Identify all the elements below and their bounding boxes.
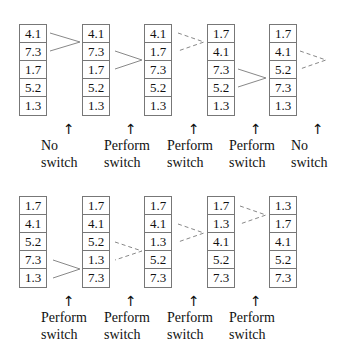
up-arrow-icon: ↑ bbox=[188, 294, 200, 308]
array-cell: 4.1 bbox=[83, 25, 109, 43]
connector-dashed-3 bbox=[178, 33, 204, 51]
up-arrow-icon: ↑ bbox=[188, 122, 200, 136]
array-cell: 1.7 bbox=[20, 61, 46, 79]
step-label: Performswitch bbox=[41, 309, 87, 343]
array-cell: 7.3 bbox=[270, 269, 296, 287]
array-cell: 1.3 bbox=[208, 215, 234, 233]
array-cell: 5.2 bbox=[270, 251, 296, 269]
array-cell: 1.3 bbox=[145, 97, 171, 115]
array-cell: 7.3 bbox=[83, 43, 109, 61]
array-cell: 1.7 bbox=[270, 215, 296, 233]
step-label: Performswitch bbox=[167, 309, 213, 343]
array-cell: 1.7 bbox=[208, 197, 234, 215]
up-arrow-icon: ↑ bbox=[250, 122, 262, 136]
array-row1-step2: 4.1 7.3 1.7 5.2 1.3 bbox=[82, 24, 110, 116]
up-arrow-icon: ↑ bbox=[63, 294, 75, 308]
array-row2-step2: 1.7 4.1 5.2 1.3 7.3 bbox=[82, 196, 110, 288]
up-arrow-icon: ↑ bbox=[312, 122, 324, 136]
up-arrow-icon: ↑ bbox=[125, 294, 137, 308]
array-cell: 1.3 bbox=[20, 97, 46, 115]
array-cell: 1.3 bbox=[270, 97, 296, 115]
connector-solid-r2-1 bbox=[53, 260, 80, 278]
step-label: Performswitch bbox=[167, 137, 213, 171]
array-cell: 4.1 bbox=[20, 215, 46, 233]
array-cell: 7.3 bbox=[145, 61, 171, 79]
array-cell: 5.2 bbox=[145, 79, 171, 97]
bubble-sort-diagram: 4.1 7.3 1.7 5.2 1.3 4.1 7.3 1.7 5.2 1.3 … bbox=[0, 0, 340, 355]
array-cell: 1.7 bbox=[83, 61, 109, 79]
array-cell: 1.7 bbox=[270, 25, 296, 43]
array-cell: 7.3 bbox=[270, 79, 296, 97]
array-cell: 5.2 bbox=[270, 61, 296, 79]
array-cell: 4.1 bbox=[145, 215, 171, 233]
connector-dashed-r2-4 bbox=[240, 206, 266, 224]
connector-solid-2 bbox=[115, 51, 142, 69]
array-cell: 1.3 bbox=[270, 197, 296, 215]
array-cell: 7.3 bbox=[208, 269, 234, 287]
array-row1-step5: 1.7 4.1 5.2 7.3 1.3 bbox=[269, 24, 297, 116]
array-cell: 5.2 bbox=[20, 79, 46, 97]
array-row2-step1: 1.7 4.1 5.2 7.3 1.3 bbox=[19, 196, 47, 288]
array-cell: 5.2 bbox=[83, 79, 109, 97]
array-cell: 5.2 bbox=[208, 79, 234, 97]
array-cell: 7.3 bbox=[83, 269, 109, 287]
array-cell: 1.7 bbox=[208, 25, 234, 43]
up-arrow-icon: ↑ bbox=[125, 122, 137, 136]
array-row1-step3: 4.1 1.7 7.3 5.2 1.3 bbox=[144, 24, 172, 116]
array-cell: 4.1 bbox=[270, 43, 296, 61]
array-cell: 4.1 bbox=[20, 25, 46, 43]
array-cell: 1.3 bbox=[208, 97, 234, 115]
connector-dashed-5 bbox=[300, 51, 326, 69]
step-label: Noswitch bbox=[41, 137, 78, 171]
array-cell: 5.2 bbox=[20, 233, 46, 251]
array-row2-step3: 1.7 4.1 1.3 5.2 7.3 bbox=[144, 196, 172, 288]
connector-solid-4 bbox=[238, 69, 266, 87]
array-cell: 4.1 bbox=[270, 233, 296, 251]
up-arrow-icon: ↑ bbox=[250, 294, 262, 308]
array-cell: 1.3 bbox=[83, 251, 109, 269]
array-cell: 4.1 bbox=[145, 25, 171, 43]
step-label: Performswitch bbox=[229, 137, 275, 171]
array-cell: 1.3 bbox=[20, 269, 46, 287]
connector-dashed-r2-3 bbox=[178, 224, 204, 242]
array-cell: 1.3 bbox=[145, 233, 171, 251]
array-row2-step4: 1.7 1.3 4.1 5.2 7.3 bbox=[207, 196, 235, 288]
step-label: Performswitch bbox=[104, 137, 150, 171]
array-cell: 5.2 bbox=[145, 251, 171, 269]
step-label: Performswitch bbox=[229, 309, 275, 343]
array-cell: 5.2 bbox=[208, 251, 234, 269]
connector-solid-1 bbox=[50, 33, 80, 51]
array-cell: 4.1 bbox=[83, 215, 109, 233]
array-row2-step5: 1.3 1.7 4.1 5.2 7.3 bbox=[269, 196, 297, 288]
array-cell: 4.1 bbox=[208, 233, 234, 251]
array-cell: 1.7 bbox=[83, 197, 109, 215]
array-cell: 1.7 bbox=[145, 197, 171, 215]
connector-dashed-r2-2 bbox=[115, 242, 142, 260]
up-arrow-icon: ↑ bbox=[63, 122, 75, 136]
array-cell: 5.2 bbox=[83, 233, 109, 251]
array-row1-step4: 1.7 4.1 7.3 5.2 1.3 bbox=[207, 24, 235, 116]
array-cell: 1.7 bbox=[20, 197, 46, 215]
array-cell: 7.3 bbox=[20, 251, 46, 269]
array-cell: 7.3 bbox=[145, 269, 171, 287]
array-cell: 7.3 bbox=[208, 61, 234, 79]
step-label: Noswitch bbox=[291, 137, 328, 171]
array-cell: 7.3 bbox=[20, 43, 46, 61]
step-label: Performswitch bbox=[104, 309, 150, 343]
array-row1-step1: 4.1 7.3 1.7 5.2 1.3 bbox=[19, 24, 47, 116]
array-cell: 1.3 bbox=[83, 97, 109, 115]
array-cell: 1.7 bbox=[145, 43, 171, 61]
array-cell: 4.1 bbox=[208, 43, 234, 61]
